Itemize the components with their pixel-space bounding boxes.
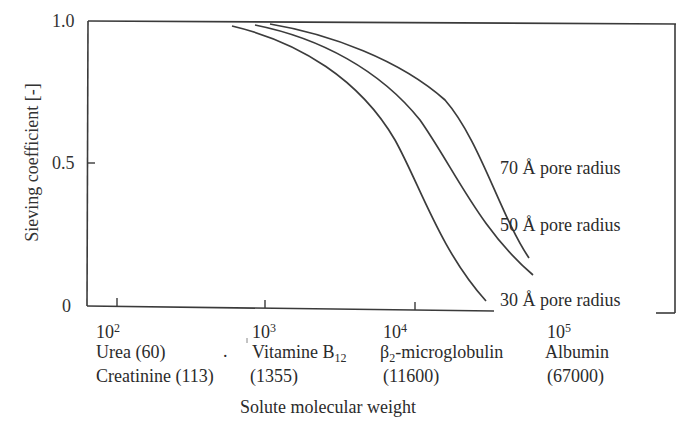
solute-name: Vitamine B <box>252 342 334 362</box>
solute-vitamin-b12-mw: (1355) <box>250 366 298 386</box>
solute-b2-microglobulin: β2-microglobulin <box>380 342 503 368</box>
xtick-label-1e2: 102 <box>96 318 120 342</box>
xtick-exp: 3 <box>270 321 276 335</box>
x-axis-label: Solute molecular weight <box>240 397 416 417</box>
separator-dot: . <box>223 341 228 361</box>
xtick-exp: 2 <box>114 321 120 335</box>
solute-name-suffix: -microglobulin <box>395 342 503 362</box>
xtick-base: 10 <box>96 322 114 342</box>
ytick-label-0.5: 0.5 <box>52 153 75 174</box>
top-border <box>88 21 676 24</box>
y-axis-label: Sieving coefficient [-] <box>22 73 43 253</box>
solute-albumin: Albumin <box>545 342 609 362</box>
curve-50A <box>255 25 533 275</box>
legend-70A: 70 Å pore radius <box>500 158 620 178</box>
ytick-label-1.0: 1.0 <box>52 11 75 32</box>
solute-subscript: 12 <box>334 351 346 365</box>
solute-b2-microglobulin-mw: (11600) <box>383 366 439 386</box>
legend-50A: 50 Å pore radius <box>500 215 620 235</box>
solute-name: β <box>380 342 389 362</box>
xtick-exp: 5 <box>565 321 571 335</box>
solute-albumin-mw: (67000) <box>547 366 604 386</box>
xtick-base: 10 <box>383 322 401 342</box>
xtick-label-1e5: 105 <box>547 318 571 342</box>
solute-creatinine: Creatinine (113) <box>96 366 214 386</box>
xtick-exp: 4 <box>401 321 407 335</box>
xtick-base: 10 <box>547 322 565 342</box>
solute-vitamin-b12: Vitamine B12 <box>252 342 346 368</box>
xtick-label-1e4: 104 <box>383 318 407 342</box>
xtick-label-1e3: 103 <box>252 318 276 342</box>
xtick-base: 10 <box>252 322 270 342</box>
ytick-label-0: 0 <box>62 296 71 317</box>
x-axis-line <box>87 306 494 311</box>
curve-70A <box>270 24 529 258</box>
solute-urea: Urea (60) <box>96 342 165 362</box>
legend-30A: 30 Å pore radius <box>500 290 620 310</box>
